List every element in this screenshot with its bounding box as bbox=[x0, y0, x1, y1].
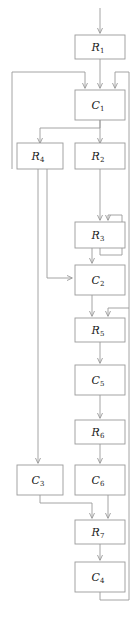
node-R7-base: R bbox=[91, 526, 100, 539]
node-R6[interactable]: R6 bbox=[75, 420, 125, 444]
edge-C3-to-R7 bbox=[40, 495, 92, 518]
flowchart-diagram: R1 C1 R4 R2 bbox=[0, 0, 136, 627]
node-R6-sub: 6 bbox=[100, 431, 105, 439]
node-C4[interactable]: C4 bbox=[75, 562, 125, 592]
node-R3-sub: 3 bbox=[100, 234, 104, 242]
node-C2-sub: 2 bbox=[100, 279, 104, 287]
edge-return-to-R5 bbox=[108, 308, 129, 316]
node-C1-sub: 1 bbox=[100, 104, 104, 112]
node-R4[interactable]: R4 bbox=[17, 143, 63, 169]
node-R5[interactable]: R5 bbox=[75, 318, 125, 342]
node-R7-sub: 7 bbox=[100, 531, 104, 539]
node-R5-sub: 5 bbox=[100, 329, 104, 337]
node-R4-sub: 4 bbox=[40, 155, 45, 163]
node-R2[interactable]: R2 bbox=[75, 143, 125, 169]
edge-C1-to-R4 bbox=[40, 120, 100, 143]
node-R3[interactable]: R3 bbox=[75, 222, 125, 248]
edge-R4-to-C2 bbox=[47, 169, 72, 278]
node-R2-base: R bbox=[91, 150, 100, 163]
flowchart-canvas: R1 C1 R4 R2 bbox=[0, 0, 136, 627]
node-C5-sub: 5 bbox=[100, 379, 104, 387]
node-C1[interactable]: C1 bbox=[75, 90, 125, 120]
node-C2[interactable]: C2 bbox=[75, 265, 125, 295]
node-R1-sub: 1 bbox=[100, 46, 104, 54]
node-R1-base: R bbox=[91, 41, 100, 54]
node-R5-base: R bbox=[91, 324, 100, 337]
node-R7[interactable]: R7 bbox=[75, 520, 125, 544]
node-R1[interactable]: R1 bbox=[75, 35, 125, 59]
node-R3-base: R bbox=[91, 229, 100, 242]
node-layer: R1 C1 R4 R2 bbox=[17, 35, 125, 592]
node-R6-base: R bbox=[91, 426, 100, 439]
node-C6-sub: 6 bbox=[100, 479, 105, 487]
node-C3-sub: 3 bbox=[40, 479, 44, 487]
node-R4-base: R bbox=[31, 150, 40, 163]
node-C5[interactable]: C5 bbox=[75, 365, 125, 395]
node-C3[interactable]: C3 bbox=[17, 465, 63, 495]
node-R2-sub: 2 bbox=[100, 155, 104, 163]
edge-C4-to-return bbox=[100, 592, 129, 600]
node-C4-sub: 4 bbox=[100, 576, 105, 584]
node-C6[interactable]: C6 bbox=[75, 465, 125, 495]
